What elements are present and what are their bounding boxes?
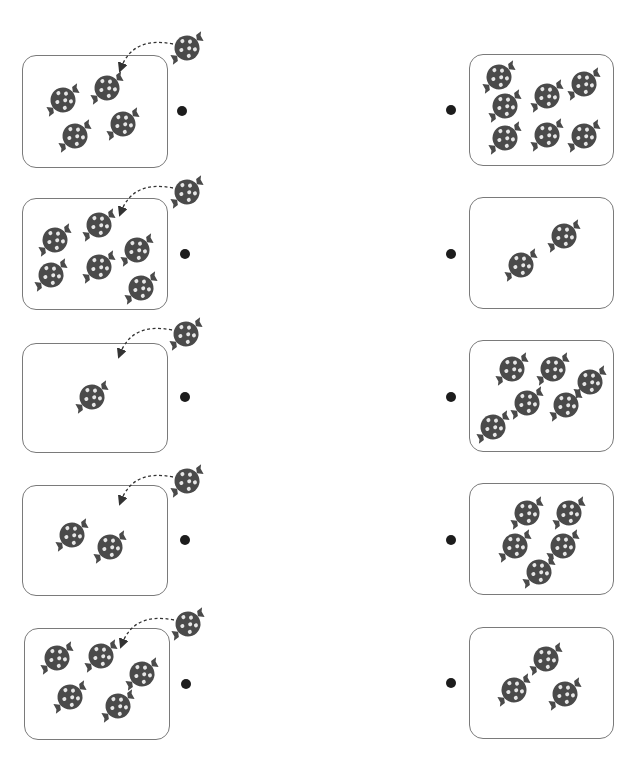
- candy-icon: [483, 88, 527, 124]
- candy-icon: [525, 78, 569, 114]
- candy-icon: [50, 517, 94, 553]
- dashed-arrow-icon: [122, 618, 174, 644]
- extra-candy-icon: [165, 463, 209, 499]
- candy-icon: [541, 528, 585, 564]
- candy-icon: [33, 222, 77, 258]
- candy-icon: [120, 656, 164, 692]
- candy-icon: [543, 676, 587, 712]
- candy-icon: [471, 409, 515, 445]
- candy-icon: [53, 118, 97, 154]
- extra-candy-icon: [164, 316, 208, 352]
- candy-icon: [531, 351, 575, 387]
- extra-candy-icon: [165, 174, 209, 210]
- candy-icon: [70, 379, 114, 415]
- candy-icon: [505, 385, 549, 421]
- candy-icon: [85, 70, 129, 106]
- dashed-arrow-icon: [121, 475, 173, 501]
- candy-icon: [77, 207, 121, 243]
- candy-icon: [542, 218, 586, 254]
- candy-icon: [493, 528, 537, 564]
- candy-icon: [41, 82, 85, 118]
- candy-icon: [562, 118, 606, 154]
- candy-icon: [115, 232, 159, 268]
- candy-icon: [505, 495, 549, 531]
- candy-icon: [48, 679, 92, 715]
- dashed-arrow-icon: [120, 328, 172, 354]
- candy-icon: [477, 59, 521, 95]
- candy-icon: [96, 688, 140, 724]
- candy-icon: [88, 529, 132, 565]
- candy-icon: [119, 270, 163, 306]
- candy-icon: [101, 106, 145, 142]
- extra-candy-icon: [165, 30, 209, 66]
- candy-icon: [568, 364, 612, 400]
- candy-icon: [499, 247, 543, 283]
- candy-icon: [492, 672, 536, 708]
- extra-candy-icon: [166, 606, 210, 642]
- candy-icon: [524, 641, 568, 677]
- candy-icon: [77, 249, 121, 285]
- candy-icon: [483, 120, 527, 156]
- candy-icon: [544, 387, 588, 423]
- candy-icon: [490, 351, 534, 387]
- candy-icon: [79, 638, 123, 674]
- dashed-arrow-icon: [121, 186, 173, 212]
- candy-icon: [562, 66, 606, 102]
- candy-layer: [0, 0, 641, 763]
- candy-icon: [517, 554, 561, 590]
- candy-icon: [525, 117, 569, 153]
- candy-icon: [29, 257, 73, 293]
- dashed-arrow-icon: [121, 42, 173, 68]
- candy-icon: [547, 495, 591, 531]
- candy-icon: [35, 640, 79, 676]
